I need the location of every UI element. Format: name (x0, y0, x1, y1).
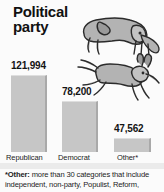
footnote: *Other: more than 30 categories that inc… (5, 170, 163, 189)
bar-chart: 121,994 Republican 78,200 Democrat 47,56… (0, 0, 164, 160)
bar-value-republican: 121,994 (11, 60, 46, 71)
bar-label-democrat: Democrat (58, 153, 90, 162)
footnote-lead: *Other: (5, 170, 30, 179)
bar-other (114, 138, 151, 152)
bar-label-republican: Republican (6, 153, 43, 162)
political-party-infographic: Political party (0, 0, 164, 192)
bar-value-democrat: 78,200 (62, 86, 91, 97)
bar-label-other: Other* (117, 153, 138, 162)
bar-democrat (62, 101, 98, 152)
bar-value-other: 47,562 (114, 123, 143, 134)
divider (0, 163, 164, 169)
bar-republican (11, 75, 47, 152)
